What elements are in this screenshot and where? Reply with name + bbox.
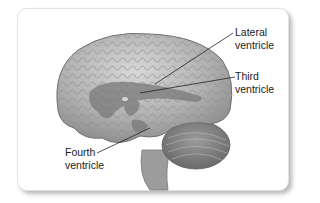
label-third-ventricle: Third ventricle: [235, 70, 274, 96]
label-line: Fourth: [65, 146, 104, 159]
label-line: ventricle: [65, 159, 104, 172]
label-line: ventricle: [235, 39, 274, 52]
label-line: Third: [235, 70, 274, 83]
label-fourth-ventricle: Fourth ventricle: [65, 146, 104, 172]
label-line: Lateral: [235, 26, 274, 39]
label-lateral-ventricle: Lateral ventricle: [235, 26, 274, 52]
label-line: ventricle: [235, 83, 274, 96]
